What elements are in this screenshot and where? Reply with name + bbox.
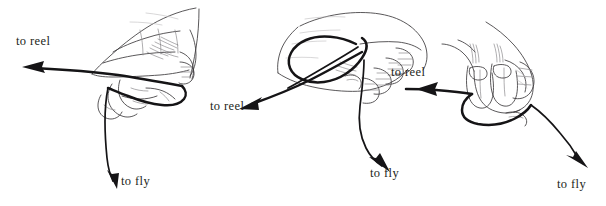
line-drawing-canvas [0,0,606,206]
arrowhead-to-reel-1 [22,61,45,73]
upright-fingers-3 [467,62,535,126]
hand-outline-1 [92,8,199,79]
hand-outline-3 [442,22,533,113]
fly-line-cord-2 [252,37,382,166]
label-to-reel-panel-3: to reel [391,66,425,79]
hand-shading-1 [147,37,178,59]
illustration-figure: to reel to fly to reel to fly to reel to… [0,0,606,206]
panel-3-drawing [406,22,588,168]
label-to-fly-panel-2: to fly [370,167,399,180]
fly-line-cord-1 [34,68,186,181]
panel-2-drawing [239,13,427,173]
arrowhead-to-reel-3 [416,82,438,96]
arrowhead-to-fly-1 [107,170,119,189]
label-to-reel-panel-2: to reel [210,100,244,113]
label-to-reel-panel-1: to reel [16,35,50,48]
label-to-fly-panel-3: to fly [557,178,586,191]
label-to-fly-panel-1: to fly [121,175,150,188]
arrowhead-to-fly-3 [566,151,588,168]
